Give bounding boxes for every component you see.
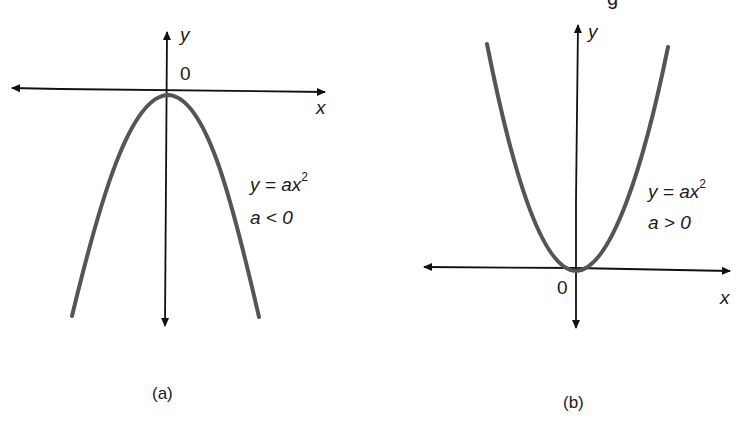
condition-a: a < 0 xyxy=(250,208,293,227)
panel-b-graph xyxy=(424,25,730,328)
caption-b: (b) xyxy=(563,393,584,413)
equation-a: y = ax2 xyxy=(250,175,308,194)
x-axis-a xyxy=(12,88,60,89)
y-axis-b xyxy=(576,25,578,200)
x-axis-label-b: x xyxy=(720,288,730,307)
equation-b: y = ax2 xyxy=(648,182,706,201)
y-axis-label-a: y xyxy=(180,25,190,44)
parabola-diagram xyxy=(0,0,745,433)
x-axis-b xyxy=(424,267,575,268)
origin-label-a: 0 xyxy=(180,64,191,83)
y-axis-label-b: y xyxy=(588,22,598,41)
x-axis-label-a: x xyxy=(316,98,326,117)
caption-a: (a) xyxy=(152,384,173,404)
origin-label-b: 0 xyxy=(557,278,568,297)
y-axis-a xyxy=(166,32,167,180)
cropped-heading-fragment: g xyxy=(607,0,618,8)
condition-b: a > 0 xyxy=(648,213,691,232)
